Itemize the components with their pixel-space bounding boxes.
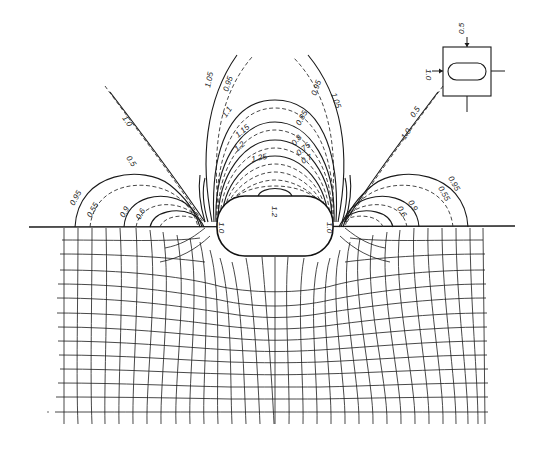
label-1.15: 1.15 [234, 122, 252, 139]
label-0.55-right: 0.55 [436, 185, 452, 203]
label-0.55-left: 0.55 [85, 201, 101, 219]
label-1.05: 1.05 [203, 71, 215, 89]
opening-hole [217, 196, 333, 256]
label-0.6-left: 0.6 [134, 206, 148, 221]
inset-label-top: 0.5 [457, 22, 466, 34]
diagram-canvas: 1.05 0.95 1.1 1.15 1.2 1.25 1.05 0.95 0.… [0, 0, 543, 453]
label-0.95-right-lobe: 0.95 [446, 175, 462, 193]
stress-diagram: 1.05 0.95 1.1 1.15 1.2 1.25 1.05 0.95 0.… [0, 0, 543, 453]
label-hole-top: 1.2 [270, 206, 279, 218]
label-hole-right: 1.0 [325, 222, 334, 234]
label-0.9-right: 0.9 [406, 199, 420, 214]
label-diag-left-1.0: 1.0 [120, 114, 134, 129]
trajectory-grid [55, 228, 488, 424]
label-diag-right-0.5: 0.5 [408, 104, 422, 119]
inset-frame [443, 47, 491, 96]
label-1.25: 1.25 [251, 152, 269, 164]
contour-cap [258, 189, 292, 197]
inset-hole [448, 63, 486, 80]
inset-label-left: 1.0 [424, 69, 433, 81]
label-hole-left: 1.0 [217, 222, 226, 234]
load-inset: 0.5 1.0 [424, 22, 505, 112]
label-0.6-right: 0.6 [395, 205, 409, 220]
label-1.05-right: 1.05 [329, 92, 343, 110]
label-diag-left-0.5: 0.5 [124, 154, 138, 169]
label-0.95-left: 0.95 [68, 189, 84, 207]
label-0.9-left: 0.9 [118, 204, 132, 219]
